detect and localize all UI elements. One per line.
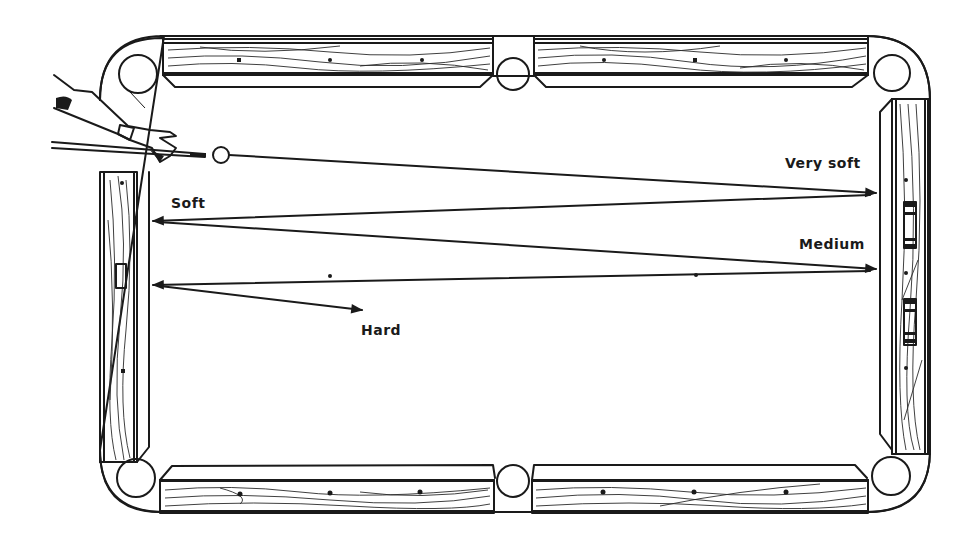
shot-path-soft bbox=[153, 195, 870, 221]
bottom-left-rail bbox=[160, 465, 495, 513]
shot-path-return bbox=[153, 271, 870, 285]
shot-path-very-soft bbox=[229, 155, 876, 193]
cue-ball bbox=[213, 147, 229, 163]
left-rail bbox=[100, 172, 149, 462]
table-frame bbox=[100, 36, 930, 512]
bottom-right-rail bbox=[532, 465, 868, 513]
label-hard: Hard bbox=[361, 322, 401, 338]
shot-path-hard bbox=[160, 286, 362, 310]
label-soft: Soft bbox=[171, 195, 205, 211]
bottom-middle-pocket bbox=[494, 465, 532, 512]
cue-stick bbox=[52, 142, 206, 157]
top-right-rail bbox=[534, 39, 868, 87]
bottom-right-pocket bbox=[868, 450, 930, 512]
label-medium: Medium bbox=[799, 236, 865, 252]
right-rail bbox=[880, 99, 928, 454]
top-middle-pocket bbox=[493, 36, 534, 90]
label-very-soft: Very soft bbox=[785, 155, 861, 171]
bottom-left-pocket bbox=[100, 450, 160, 512]
pool-table-diagram bbox=[0, 0, 977, 542]
top-left-rail bbox=[163, 39, 493, 87]
top-right-pocket bbox=[866, 36, 930, 100]
shot-path-medium bbox=[158, 222, 876, 269]
